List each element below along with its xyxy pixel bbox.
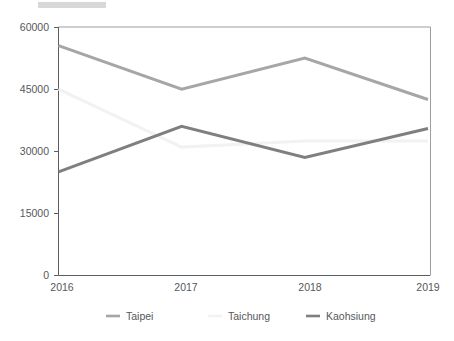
series-line-taipei bbox=[59, 46, 429, 100]
x-tick-label-2016: 2016 bbox=[50, 281, 74, 293]
y-tick-label-60000: 60000 bbox=[20, 21, 49, 33]
y-tick-label-30000: 30000 bbox=[20, 145, 49, 157]
chart-legend: Taipei Taichung Kaohsiung bbox=[106, 310, 376, 322]
series-line-kaohsiung bbox=[59, 126, 429, 172]
x-tick-label-2019: 2019 bbox=[416, 281, 440, 293]
legend-item-taichung[interactable]: Taichung bbox=[208, 310, 270, 322]
y-tick-label-0: 0 bbox=[43, 269, 49, 281]
legend-label-kaohsiung: Kaohsiung bbox=[326, 310, 376, 322]
y-tick-label-15000: 15000 bbox=[20, 207, 49, 219]
legend-label-taichung: Taichung bbox=[228, 310, 270, 322]
line-chart: 60000 45000 30000 15000 0 2016 2017 2018… bbox=[0, 0, 454, 341]
y-axis-ticks bbox=[54, 28, 59, 276]
chart-canvas: 60000 45000 30000 15000 0 2016 2017 2018… bbox=[0, 0, 454, 341]
x-tick-label-2018: 2018 bbox=[298, 281, 322, 293]
legend-label-taipei: Taipei bbox=[126, 310, 153, 322]
legend-item-taipei[interactable]: Taipei bbox=[106, 310, 153, 322]
series-line-taichung bbox=[59, 89, 429, 147]
x-tick-label-2017: 2017 bbox=[174, 281, 198, 293]
legend-item-kaohsiung[interactable]: Kaohsiung bbox=[306, 310, 376, 322]
y-tick-label-45000: 45000 bbox=[20, 83, 49, 95]
